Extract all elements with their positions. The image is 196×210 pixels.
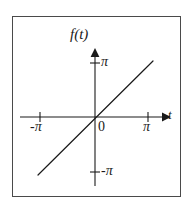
figure-container: f(t) t π -π π -π 0 [0, 0, 196, 210]
y-tick-label-positive-pi: π [101, 55, 108, 69]
graph-canvas [0, 0, 196, 210]
y-axis-arrowhead [91, 48, 100, 57]
x-axis-label: t [168, 108, 172, 121]
origin-label: 0 [98, 120, 105, 134]
x-tick-label-positive-pi: π [143, 120, 150, 134]
x-tick-label-negative-pi: -π [30, 120, 42, 134]
y-tick-label-negative-pi: -π [101, 164, 113, 178]
y-axis-label: f(t) [70, 27, 88, 42]
